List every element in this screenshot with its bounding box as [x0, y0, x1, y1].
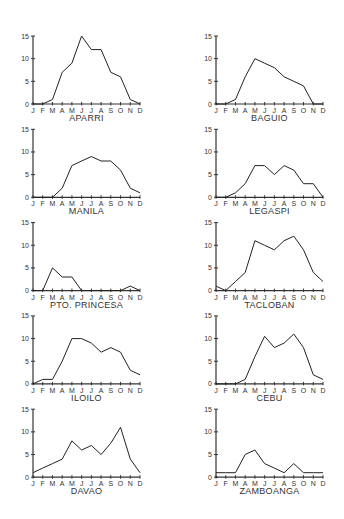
chart-panel-tacloban: 051015JFMAMJJASONDTACLOBAN: [204, 219, 325, 310]
x-tick-label: M: [233, 294, 239, 301]
data-line: [33, 427, 140, 472]
x-tick-label: J: [214, 294, 218, 301]
y-tick-label: 0: [208, 474, 212, 481]
x-tick-label: D: [137, 200, 142, 207]
x-tick-label: J: [214, 387, 218, 394]
data-line: [33, 339, 140, 384]
x-tick-label: J: [31, 480, 35, 487]
y-tick-label: 5: [208, 451, 212, 458]
x-tick-label: M: [233, 107, 239, 114]
x-tick-label: N: [311, 294, 316, 301]
x-tick-label: A: [60, 480, 65, 487]
x-tick-label: J: [214, 200, 218, 207]
x-tick-label: O: [301, 387, 307, 394]
x-tick-label: S: [108, 387, 113, 394]
chart-panel-zamboanga: 051015JFMAMJJASONDZAMBOANGA: [204, 406, 325, 497]
data-line: [216, 334, 323, 384]
y-tick-label: 10: [21, 55, 29, 62]
x-tick-label: S: [291, 387, 296, 394]
x-tick-label: F: [224, 294, 228, 301]
y-tick-label: 5: [208, 358, 212, 365]
y-tick-label: 0: [25, 474, 29, 481]
x-tick-label: J: [31, 294, 35, 301]
x-tick-label: O: [301, 200, 307, 207]
x-tick-label: M: [50, 480, 56, 487]
x-tick-label: N: [311, 480, 316, 487]
x-tick-label: O: [301, 480, 307, 487]
x-tick-label: M: [50, 387, 56, 394]
y-tick-label: 5: [208, 78, 212, 85]
x-tick-label: J: [214, 480, 218, 487]
y-tick-label: 0: [208, 101, 212, 108]
chart-panel-aparri: 051015JFMAMJJASONDAPARRI: [21, 33, 142, 124]
chart-panel-cebu: 051015JFMAMJJASONDCEBU: [204, 312, 325, 403]
chart-panel-baguio: 051015JFMAMJJASONDBAGUIO: [204, 33, 325, 124]
y-tick-label: 5: [25, 171, 29, 178]
y-tick-label: 0: [25, 194, 29, 201]
x-tick-label: O: [118, 480, 124, 487]
y-tick-label: 15: [21, 312, 29, 319]
y-tick-label: 15: [204, 219, 212, 226]
chart-panel-davao: 051015JFMAMJJASONDDAVAO: [21, 406, 142, 497]
x-tick-label: N: [311, 200, 316, 207]
climate-small-multiples-figure: 051015JFMAMJJASONDAPARRI051015JFMAMJJASO…: [0, 0, 344, 519]
x-tick-label: M: [233, 200, 239, 207]
x-tick-label: S: [108, 107, 113, 114]
y-tick-label: 5: [25, 451, 29, 458]
station-title: DAVAO: [71, 486, 103, 496]
y-tick-label: 15: [204, 406, 212, 413]
y-tick-label: 15: [21, 406, 29, 413]
y-tick-label: 15: [21, 33, 29, 40]
y-tick-label: 15: [204, 33, 212, 40]
x-tick-label: J: [31, 200, 35, 207]
x-tick-label: D: [320, 480, 325, 487]
x-tick-label: F: [41, 480, 45, 487]
y-tick-label: 0: [208, 194, 212, 201]
x-tick-label: S: [291, 200, 296, 207]
y-tick-label: 10: [21, 242, 29, 249]
x-tick-label: N: [128, 294, 133, 301]
data-line: [33, 157, 140, 198]
y-tick-label: 0: [25, 101, 29, 108]
station-title: MANILA: [69, 206, 104, 216]
x-tick-label: J: [31, 387, 35, 394]
y-tick-label: 10: [21, 148, 29, 155]
x-tick-label: D: [137, 480, 142, 487]
x-tick-label: D: [137, 107, 142, 114]
y-tick-label: 5: [25, 264, 29, 271]
x-tick-label: N: [128, 107, 133, 114]
y-tick-label: 15: [204, 312, 212, 319]
data-line: [33, 36, 140, 104]
y-tick-label: 0: [25, 287, 29, 294]
chart-panel-manila: 051015JFMAMJJASONDMANILA: [21, 126, 142, 217]
y-tick-label: 5: [25, 78, 29, 85]
station-title: PTO. PRINCESA: [50, 300, 123, 310]
data-line: [216, 236, 323, 290]
x-tick-label: S: [108, 480, 113, 487]
x-tick-label: N: [311, 387, 316, 394]
y-tick-label: 5: [208, 264, 212, 271]
y-tick-label: 5: [25, 358, 29, 365]
line-chart-grid: 051015JFMAMJJASONDAPARRI051015JFMAMJJASO…: [0, 0, 344, 519]
data-line: [216, 166, 323, 198]
x-tick-label: N: [128, 480, 133, 487]
x-tick-label: N: [128, 200, 133, 207]
data-line: [216, 59, 323, 104]
chart-panel-pto-princesa: 051015JFMAMJJASONDPTO. PRINCESA: [21, 219, 142, 310]
station-title: BAGUIO: [251, 113, 288, 123]
y-tick-label: 10: [204, 428, 212, 435]
x-tick-label: A: [60, 200, 65, 207]
x-tick-label: D: [320, 200, 325, 207]
x-tick-label: A: [60, 387, 65, 394]
station-title: LEGASPI: [249, 206, 290, 216]
x-tick-label: O: [118, 200, 124, 207]
y-tick-label: 10: [204, 335, 212, 342]
y-tick-label: 10: [204, 148, 212, 155]
x-tick-label: M: [233, 480, 239, 487]
x-tick-label: O: [301, 107, 307, 114]
chart-panel-iloilo: 051015JFMAMJJASONDILOILO: [21, 312, 142, 403]
x-tick-label: D: [137, 294, 142, 301]
chart-panel-legaspi: 051015JFMAMJJASONDLEGASPI: [204, 126, 325, 217]
x-tick-label: D: [320, 107, 325, 114]
y-tick-label: 0: [208, 287, 212, 294]
